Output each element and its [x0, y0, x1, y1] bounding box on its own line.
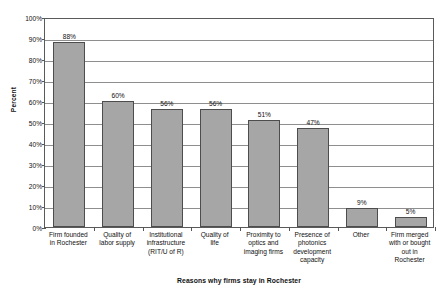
- bar[interactable]: [151, 109, 183, 227]
- x-axis-category-label: Firm foundedin Rochester: [44, 231, 93, 248]
- x-axis-category-label-line: photonics: [288, 239, 337, 247]
- x-axis-category-label-line: life: [190, 239, 239, 247]
- y-axis-tick-label: 10%: [14, 204, 42, 211]
- x-axis-category-label-line: infrastructure: [142, 239, 191, 247]
- x-axis-category-label: Proximity tooptics andimaging firms: [239, 231, 288, 256]
- x-axis-category-label-line: Quality of: [93, 231, 142, 239]
- y-axis-tick-label: 60%: [14, 99, 42, 106]
- x-axis-category-label: Quality oflife: [190, 231, 239, 248]
- y-axis-tick-label: 30%: [14, 162, 42, 169]
- x-axis-category-label-line: Rochester: [385, 256, 434, 264]
- plot-area: 88%60%56%56%51%47%9%5%: [44, 18, 434, 228]
- bar[interactable]: [395, 217, 427, 228]
- bar-group: 60%: [94, 19, 143, 227]
- bar[interactable]: [248, 120, 280, 227]
- x-axis-title: Reasons why firms stay in Rochester: [44, 277, 434, 284]
- y-axis-tick-mark: [42, 228, 46, 229]
- x-axis-category-label-line: with or bought: [385, 239, 434, 247]
- x-axis-category-label-line: Proximity to: [239, 231, 288, 239]
- y-axis-tick-label: 100%: [14, 15, 42, 22]
- bar-group: 47%: [289, 19, 338, 227]
- x-axis-tick-mark: [435, 227, 436, 231]
- y-axis-tick-label: 50%: [14, 120, 42, 127]
- y-axis-tick-label: 90%: [14, 36, 42, 43]
- bar-value-label: 60%: [112, 92, 125, 100]
- bar-value-label: 56%: [209, 100, 222, 108]
- bar[interactable]: [53, 42, 85, 227]
- y-axis-tick-label: 80%: [14, 57, 42, 64]
- x-axis-category-label-line: labor supply: [93, 239, 142, 247]
- x-axis-category-label-line: Quality of: [190, 231, 239, 239]
- bars-layer: 88%60%56%56%51%47%9%5%: [45, 19, 433, 227]
- x-axis-category-label-line: optics and: [239, 239, 288, 247]
- bar-group: 56%: [191, 19, 240, 227]
- x-axis-category-label: Firm mergedwith or boughtout inRochester: [385, 231, 434, 265]
- bar-value-label: 56%: [160, 100, 173, 108]
- x-axis-category-label-line: Firm founded: [44, 231, 93, 239]
- x-axis-category-label-line: Presence of: [288, 231, 337, 239]
- x-axis-category-label-line: development: [288, 248, 337, 256]
- bar-group: 56%: [143, 19, 192, 227]
- bar-group: 9%: [338, 19, 387, 227]
- bar-value-label: 47%: [307, 119, 320, 127]
- x-axis-category-label-line: Other: [337, 231, 386, 239]
- bar-chart: Percent 0%10%20%30%40%50%60%70%80%90%100…: [0, 0, 447, 292]
- x-axis-category-label: Presence ofphotonicsdevelopmentcapacity: [288, 231, 337, 265]
- bar-value-label: 9%: [357, 199, 367, 207]
- x-axis-category-label: Institutionalinfrastructure(RIT/U of R): [142, 231, 191, 256]
- bar-value-label: 88%: [63, 33, 76, 41]
- bar-group: 5%: [386, 19, 435, 227]
- x-axis-category-label-line: out in: [385, 248, 434, 256]
- bar-group: 51%: [240, 19, 289, 227]
- bar-group: 88%: [45, 19, 94, 227]
- bar-value-label: 5%: [406, 208, 416, 216]
- y-axis-tick-label: 20%: [14, 183, 42, 190]
- x-axis-category-label-line: imaging firms: [239, 248, 288, 256]
- y-axis-tick-labels: 0%10%20%30%40%50%60%70%80%90%100%: [14, 18, 42, 228]
- y-axis-tick-label: 40%: [14, 141, 42, 148]
- bar[interactable]: [200, 109, 232, 227]
- x-axis-category-labels: Firm foundedin RochesterQuality oflabor …: [44, 231, 434, 279]
- y-axis-tick-label: 0%: [14, 225, 42, 232]
- x-axis-category-label-line: in Rochester: [44, 239, 93, 247]
- bar-value-label: 51%: [258, 111, 271, 119]
- x-axis-category-label-line: Firm merged: [385, 231, 434, 239]
- bar[interactable]: [297, 128, 329, 227]
- y-axis-tick-label: 70%: [14, 78, 42, 85]
- bar[interactable]: [346, 208, 378, 227]
- x-axis-category-label-line: Institutional: [142, 231, 191, 239]
- bar[interactable]: [102, 101, 134, 227]
- x-axis-category-label-line: (RIT/U of R): [142, 248, 191, 256]
- x-axis-category-label: Other: [337, 231, 386, 239]
- x-axis-category-label-line: capacity: [288, 256, 337, 264]
- x-axis-category-label: Quality oflabor supply: [93, 231, 142, 248]
